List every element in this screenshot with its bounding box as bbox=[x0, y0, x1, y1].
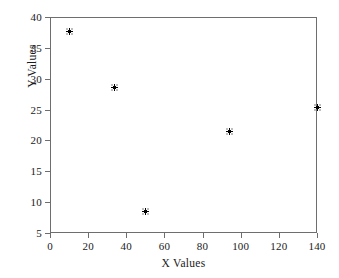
data-point[interactable] bbox=[111, 84, 118, 91]
y-tick-label-10: 10 bbox=[0, 196, 42, 208]
y-tick-25 bbox=[45, 110, 50, 111]
x-tick-40 bbox=[126, 233, 127, 238]
plot-area bbox=[50, 17, 317, 233]
x-tick-100 bbox=[241, 233, 242, 238]
data-point[interactable] bbox=[142, 208, 149, 215]
data-point[interactable] bbox=[66, 28, 73, 35]
y-tick-40 bbox=[45, 17, 50, 18]
y-tick-label-15: 15 bbox=[0, 165, 42, 177]
x-tick-60 bbox=[164, 233, 165, 238]
x-tick-label-140: 140 bbox=[308, 240, 325, 252]
y-tick-label-20: 20 bbox=[0, 134, 42, 146]
x-tick-label-100: 100 bbox=[232, 240, 249, 252]
y-tick-15 bbox=[45, 171, 50, 172]
y-tick-label-30: 30 bbox=[0, 73, 42, 85]
x-tick-80 bbox=[203, 233, 204, 238]
x-axis-title: X Values bbox=[50, 257, 317, 269]
scatter-chart-figure: X Values Y Values 0204060801001201405101… bbox=[0, 0, 339, 278]
y-tick-5 bbox=[45, 233, 50, 234]
x-tick-label-0: 0 bbox=[47, 240, 53, 252]
x-tick-120 bbox=[279, 233, 280, 238]
x-tick-label-20: 20 bbox=[82, 240, 93, 252]
y-tick-label-40: 40 bbox=[0, 11, 42, 23]
y-tick-30 bbox=[45, 79, 50, 80]
y-tick-label-25: 25 bbox=[0, 104, 42, 116]
data-point[interactable] bbox=[314, 104, 321, 111]
y-tick-label-5: 5 bbox=[0, 227, 42, 239]
x-tick-label-40: 40 bbox=[121, 240, 132, 252]
x-tick-0 bbox=[50, 233, 51, 238]
x-tick-label-60: 60 bbox=[159, 240, 170, 252]
x-tick-label-80: 80 bbox=[197, 240, 208, 252]
y-tick-label-35: 35 bbox=[0, 42, 42, 54]
x-tick-20 bbox=[88, 233, 89, 238]
y-tick-35 bbox=[45, 48, 50, 49]
y-tick-10 bbox=[45, 202, 50, 203]
data-point[interactable] bbox=[226, 128, 233, 135]
x-tick-label-120: 120 bbox=[270, 240, 287, 252]
y-tick-20 bbox=[45, 140, 50, 141]
x-tick-140 bbox=[317, 233, 318, 238]
